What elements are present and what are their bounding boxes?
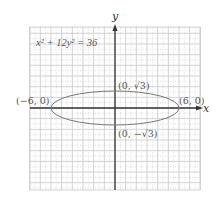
equation-label: x² + 12y² = 36 — [35, 37, 98, 48]
top-covertex-label: (0, √3) — [118, 80, 150, 91]
x-axis-arrow-icon — [196, 106, 203, 111]
right-vertex-label: (6, 0) — [179, 95, 205, 106]
ellipse-graph: y x x² + 12y² = 36 (−6, 0) (6, 0) (0, √3… — [0, 0, 220, 204]
y-axis-arrow-icon — [113, 24, 118, 31]
equation-text: x² + 12y² = 36 — [35, 37, 98, 48]
bottom-covertex-label: (0, −√3) — [118, 128, 158, 139]
y-axis-label: y — [111, 10, 119, 23]
left-vertex-label: (−6, 0) — [16, 95, 50, 106]
